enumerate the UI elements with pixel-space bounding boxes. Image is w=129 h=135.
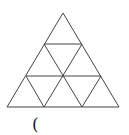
subdivided-triangle-figure [0,0,129,135]
outer-triangle [7,13,119,107]
diagonal-line-4 [82,76,101,107]
diagonal-line-3 [26,76,44,107]
answer-blank-paren: ( [32,114,39,134]
